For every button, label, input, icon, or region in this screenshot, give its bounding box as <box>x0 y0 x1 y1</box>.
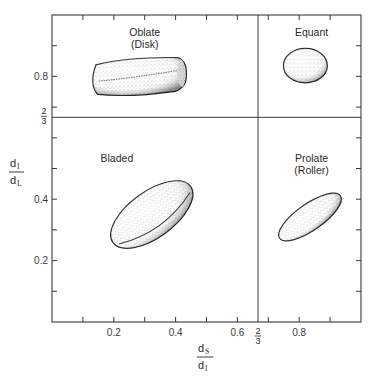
region-subname: (Roller) <box>294 164 328 176</box>
particle-shade <box>272 185 348 249</box>
region-name: Equant <box>295 26 328 38</box>
oblate-particle <box>92 56 188 97</box>
y-divider-label-num: 2 <box>41 106 46 116</box>
y-tick-label: 0.2 <box>34 255 48 266</box>
bladed-particle <box>100 168 205 262</box>
svg-text:I: I <box>205 364 208 373</box>
zingg-diagram: Oblate(Disk)EquantBladedProlate(Roller) … <box>0 0 375 382</box>
x-divider-label-den: 3 <box>256 336 261 346</box>
region-label-bladed: Bladed <box>101 152 134 164</box>
x-tick-label: 0.6 <box>230 327 244 338</box>
svg-text:I: I <box>17 162 20 171</box>
y-tick-label: 0.4 <box>34 194 48 205</box>
region-name: Oblate <box>129 26 160 38</box>
y-divider-label-den: 3 <box>41 116 46 126</box>
svg-text:L: L <box>17 179 22 188</box>
region-label-prolate: Prolate(Roller) <box>294 152 328 176</box>
region-label-equant: Equant <box>295 26 328 38</box>
y-tick-label: 0.8 <box>34 71 48 82</box>
particle-shade <box>283 48 327 82</box>
svg-text:d: d <box>198 342 204 354</box>
svg-text:d: d <box>198 359 204 371</box>
svg-text:d: d <box>10 174 16 186</box>
region-label-oblate: Oblate(Disk) <box>129 26 160 50</box>
svg-text:d: d <box>10 157 16 169</box>
svg-text:S: S <box>205 347 209 356</box>
region-name: Bladed <box>101 152 134 164</box>
x-tick-label: 0.2 <box>107 327 121 338</box>
particle-shade <box>100 168 205 262</box>
y-axis-label: d I d L <box>9 157 24 188</box>
x-axis-label: d S d I <box>197 342 213 373</box>
region-labels: Oblate(Disk)EquantBladedProlate(Roller) <box>101 26 329 176</box>
x-divider-label-num: 2 <box>256 326 261 336</box>
x-tick-label: 0.8 <box>292 327 306 338</box>
region-subname: (Disk) <box>131 38 158 50</box>
prolate-particle <box>272 185 348 249</box>
x-tick-label: 0.4 <box>169 327 183 338</box>
equant-particle <box>283 48 327 82</box>
region-name: Prolate <box>295 152 328 164</box>
